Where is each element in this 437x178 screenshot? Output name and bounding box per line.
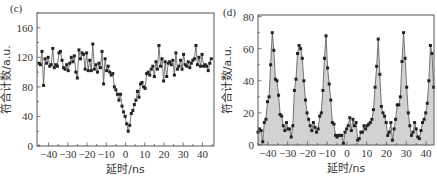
data-point-marker: [119, 93, 122, 96]
data-line: [39, 44, 211, 131]
data-point-marker: [326, 66, 329, 69]
y-tick-label: 40: [22, 110, 34, 122]
data-point-marker: [174, 51, 177, 54]
data-point-marker: [170, 63, 173, 66]
y-axis-label: 符合计数/a.u.: [0, 45, 13, 113]
data-point-marker: [190, 62, 193, 65]
data-point-marker: [82, 53, 85, 56]
data-point-marker: [310, 129, 313, 132]
panel-label: (c): [10, 2, 23, 15]
x-tick-label: −30: [279, 147, 297, 159]
x-tick-label: 0: [123, 148, 129, 160]
data-point-marker: [271, 31, 274, 34]
data-point-marker: [208, 62, 211, 65]
data-point-marker: [88, 59, 91, 62]
data-point-marker: [269, 63, 272, 66]
data-point-marker: [383, 115, 386, 118]
coincidence-count-chart-c: −40−30−20−1001020304004080120160延时/ns符合计…: [0, 0, 218, 178]
data-point-marker: [309, 124, 312, 127]
data-point-marker: [97, 62, 100, 65]
data-point-marker: [280, 115, 283, 118]
data-point-marker: [285, 121, 288, 124]
data-point-marker: [427, 79, 430, 82]
x-tick-label: −10: [98, 148, 116, 160]
data-point-marker: [176, 68, 179, 71]
data-point-marker: [105, 69, 108, 72]
x-tick-label: −10: [319, 147, 337, 159]
data-point-marker: [136, 90, 139, 93]
data-point-marker: [77, 48, 80, 51]
data-point-marker: [64, 68, 67, 71]
data-point-marker: [125, 122, 128, 125]
data-point-marker: [393, 127, 396, 130]
data-point-marker: [94, 63, 97, 66]
data-point-marker: [68, 62, 71, 65]
data-point-marker: [402, 31, 405, 34]
y-tick-label: 40: [243, 75, 255, 87]
data-point-marker: [53, 66, 56, 69]
data-point-marker: [111, 72, 114, 75]
data-point-marker: [358, 137, 361, 140]
data-point-marker: [275, 79, 278, 82]
data-point-marker: [288, 127, 291, 130]
data-point-marker: [171, 59, 174, 62]
data-point-marker: [147, 71, 150, 74]
data-point-marker: [353, 124, 356, 127]
data-point-marker: [177, 65, 180, 68]
data-point-marker: [306, 111, 309, 114]
data-point-marker: [296, 52, 299, 55]
data-point-marker: [210, 57, 213, 60]
data-point-marker: [380, 105, 383, 108]
data-point-marker: [350, 129, 353, 132]
data-point-marker: [51, 47, 54, 50]
data-point-marker: [93, 68, 96, 71]
data-point-marker: [79, 57, 82, 60]
data-point-marker: [283, 129, 286, 132]
data-point-marker: [378, 73, 381, 76]
x-tick-label: 30: [401, 147, 413, 159]
data-point-marker: [370, 118, 373, 121]
data-point-marker: [165, 75, 168, 78]
data-point-marker: [282, 124, 285, 127]
data-point-marker: [194, 44, 197, 47]
data-point-marker: [90, 69, 93, 72]
data-point-marker: [261, 140, 264, 143]
data-point-marker: [407, 111, 410, 114]
y-tick-label: 20: [243, 107, 255, 119]
panel-label: (d): [223, 6, 236, 19]
data-point-marker: [419, 129, 422, 132]
data-point-marker: [201, 53, 204, 56]
data-point-marker: [304, 99, 307, 102]
x-tick-label: −40: [259, 147, 277, 159]
x-tick-label: 10: [361, 147, 373, 159]
data-point-marker: [73, 54, 76, 57]
data-point-marker: [345, 127, 348, 130]
data-point-marker: [431, 52, 434, 55]
x-tick-label: 40: [197, 148, 209, 160]
data-point-marker: [385, 121, 388, 124]
y-tick-label: 120: [17, 51, 34, 63]
data-point-marker: [65, 63, 68, 66]
data-point-marker: [369, 121, 372, 124]
data-point-marker: [381, 111, 384, 114]
data-point-marker: [187, 60, 190, 63]
data-point-marker: [193, 57, 196, 60]
data-point-marker: [421, 121, 424, 124]
y-tick-label: 0: [28, 140, 34, 152]
data-point-marker: [71, 60, 74, 63]
data-point-marker: [104, 57, 107, 60]
data-point-marker: [154, 60, 157, 63]
data-point-marker: [302, 79, 305, 82]
data-point-marker: [47, 56, 50, 59]
data-point-marker: [355, 121, 358, 124]
data-point-marker: [116, 93, 119, 96]
data-point-marker: [70, 56, 73, 59]
x-axis-label: 延时/ns: [106, 163, 145, 176]
y-tick-label: 160: [17, 22, 34, 34]
data-point-marker: [85, 51, 88, 54]
data-point-marker: [413, 121, 416, 124]
data-point-marker: [272, 49, 275, 52]
data-point-marker: [150, 68, 153, 71]
data-point-marker: [375, 65, 378, 68]
data-point-marker: [84, 68, 87, 71]
